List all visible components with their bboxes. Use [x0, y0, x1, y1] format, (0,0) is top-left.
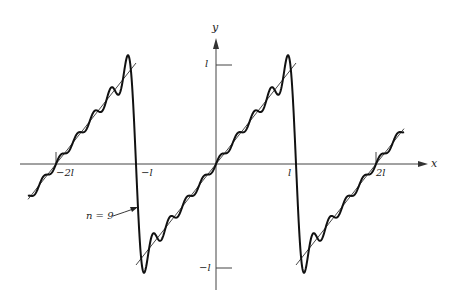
y-axis-label: y — [212, 22, 218, 33]
x-tick-label-neg2l: −2l — [56, 168, 74, 178]
annotation-n-label: n = 9 — [86, 211, 114, 221]
x-tick-label-l: l — [288, 168, 291, 178]
axes — [20, 38, 428, 290]
fourier-sawtooth-plot — [0, 0, 450, 299]
annotation-arrow — [113, 207, 138, 216]
x-tick-label-2l: 2l — [376, 168, 386, 178]
y-tick-label-l: l — [205, 59, 208, 69]
x-axis-label: x — [431, 158, 437, 169]
y-tick-label-negl: −l — [199, 263, 211, 273]
x-tick-label-negl: −l — [141, 168, 153, 178]
x-axis-arrow-icon — [418, 161, 428, 167]
y-axis-arrow-icon — [213, 38, 219, 49]
